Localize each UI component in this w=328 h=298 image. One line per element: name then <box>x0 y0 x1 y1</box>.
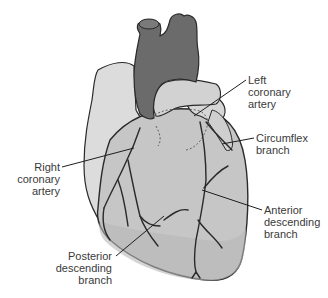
label-line: Right <box>10 161 60 173</box>
label-line: coronary <box>10 173 60 185</box>
label-line: Circumflex <box>256 132 308 144</box>
label-circumflex-branch: Circumflex branch <box>256 132 308 156</box>
label-right-coronary-artery: Right coronary artery <box>10 161 60 197</box>
label-line: Left <box>248 74 291 86</box>
label-line: artery <box>248 98 291 110</box>
label-line: descending <box>264 216 320 228</box>
label-line: branch <box>256 144 308 156</box>
aorta-opening <box>139 19 159 29</box>
label-posterior-descending-branch: Posterior descending branch <box>50 250 112 286</box>
label-line: branch <box>264 228 320 240</box>
label-anterior-descending-branch: Anterior descending branch <box>264 204 320 240</box>
label-line: Posterior <box>50 250 112 262</box>
label-line: artery <box>10 185 60 197</box>
label-line: coronary <box>248 86 291 98</box>
label-left-coronary-artery: Left coronary artery <box>248 74 291 110</box>
label-line: branch <box>50 274 112 286</box>
label-line: descending <box>50 262 112 274</box>
label-line: Anterior <box>264 204 320 216</box>
